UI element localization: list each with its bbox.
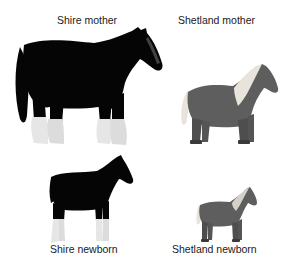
label-shire-mother: Shire mother: [57, 14, 117, 26]
shire-mother-illustration: [14, 27, 164, 147]
foal-icon: [47, 155, 135, 245]
shire-newborn-illustration: [47, 155, 135, 245]
horse-icon: [14, 27, 164, 147]
pony-icon: [178, 62, 280, 146]
pony-foal-icon: [194, 187, 258, 243]
shetland-newborn-illustration: [194, 187, 258, 243]
label-shetland-newborn: Shetland newborn: [172, 243, 257, 255]
shetland-mother-illustration: [178, 62, 280, 146]
label-shetland-mother: Shetland mother: [178, 14, 255, 26]
